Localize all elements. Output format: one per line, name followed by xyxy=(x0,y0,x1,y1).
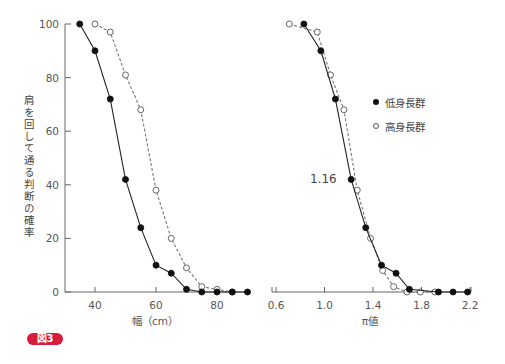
x-tick-label: 0.6 xyxy=(268,299,285,311)
data-point xyxy=(92,21,98,27)
data-point xyxy=(199,289,205,295)
x-axis-label: π値 xyxy=(362,315,379,327)
data-point xyxy=(123,72,129,78)
series-short-group xyxy=(77,21,251,295)
chart-canvas: 406080幅（cm）0204060801000.61.01.41.82.2π値 xyxy=(0,0,505,364)
y-tick-label: 100 xyxy=(39,18,59,30)
data-point xyxy=(138,225,144,231)
data-point xyxy=(301,21,307,27)
data-point xyxy=(184,265,190,271)
x-tick-label: 1.0 xyxy=(316,299,333,311)
data-point xyxy=(406,286,412,292)
x-tick-label: 1.4 xyxy=(365,299,382,311)
data-point xyxy=(465,289,471,295)
legend: 低身長群 高身長群 xyxy=(373,90,425,138)
data-point xyxy=(318,48,324,54)
data-point xyxy=(168,270,174,276)
data-point xyxy=(138,107,144,113)
filled-circle-icon xyxy=(373,99,379,105)
chart-2: 0.61.01.41.82.2π値 xyxy=(268,21,479,327)
data-point xyxy=(168,235,174,241)
series-tall-group xyxy=(92,21,235,295)
x-tick-label: 2.2 xyxy=(462,299,479,311)
data-point xyxy=(332,96,338,102)
data-point xyxy=(92,48,98,54)
series-tall-group xyxy=(286,21,438,295)
data-point xyxy=(245,289,251,295)
x-axis-label: 幅（cm） xyxy=(132,315,178,327)
y-tick-label: 0 xyxy=(52,286,59,298)
data-point xyxy=(378,262,384,268)
data-point xyxy=(286,21,292,27)
data-point xyxy=(153,262,159,268)
chart-1: 406080幅（cm）020406080100 xyxy=(39,18,251,327)
data-point xyxy=(184,286,190,292)
data-point xyxy=(450,289,456,295)
x-tick-label: 1.8 xyxy=(413,299,430,311)
y-tick-label: 80 xyxy=(46,72,59,84)
data-point xyxy=(341,107,347,113)
x-tick-label: 40 xyxy=(88,299,101,311)
legend-item-short-group: 低身長群 xyxy=(373,90,425,114)
legend-label: 高身長群 xyxy=(385,119,425,134)
data-point xyxy=(214,289,220,295)
data-point xyxy=(391,284,397,290)
data-point xyxy=(123,176,129,182)
annotation-1-16: 1.16 xyxy=(310,172,337,186)
y-tick-label: 20 xyxy=(46,232,59,244)
data-point xyxy=(77,21,83,27)
data-point xyxy=(229,289,235,295)
data-point xyxy=(153,187,159,193)
x-tick-label: 60 xyxy=(149,299,162,311)
data-point xyxy=(314,29,320,35)
legend-item-tall-group: 高身長群 xyxy=(373,114,425,138)
y-tick-label: 40 xyxy=(46,179,59,191)
figure-badge: 図3 xyxy=(27,333,63,345)
data-point xyxy=(107,96,113,102)
figure: 406080幅（cm）0204060801000.61.01.41.82.2π値… xyxy=(0,0,505,364)
data-point xyxy=(348,176,354,182)
data-point xyxy=(393,270,399,276)
y-tick-label: 60 xyxy=(46,125,59,137)
data-point xyxy=(435,289,441,295)
data-point xyxy=(363,225,369,231)
open-circle-icon xyxy=(373,123,379,129)
y-axis-label: 肩を回して通る判断の確率 xyxy=(22,95,36,239)
x-tick-label: 80 xyxy=(210,299,223,311)
data-point xyxy=(107,29,113,35)
legend-label: 低身長群 xyxy=(385,95,425,110)
